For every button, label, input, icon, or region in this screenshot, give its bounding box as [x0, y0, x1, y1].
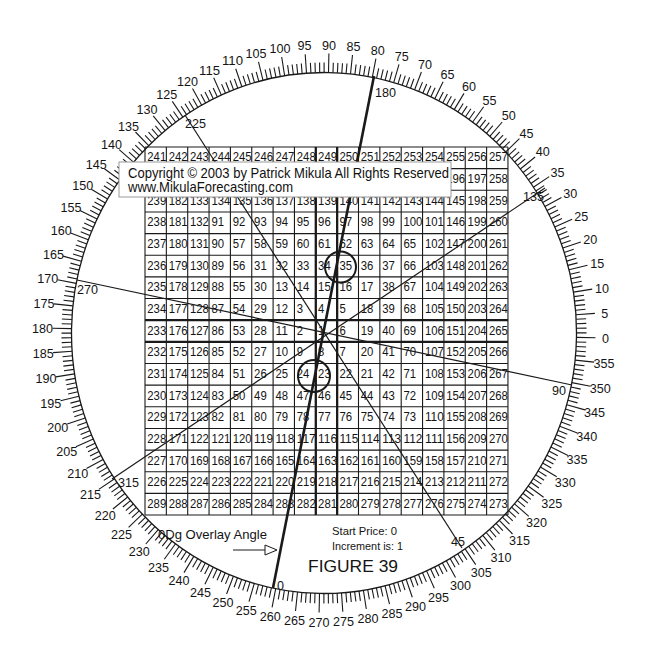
grid-cell-value: 111	[425, 432, 444, 446]
grid-cell-value: 265	[489, 324, 508, 338]
figure-caption: FIGURE 39	[308, 557, 398, 576]
grid-cell-value: 122	[190, 432, 209, 446]
grid-cell-value: 270	[489, 432, 508, 446]
degree-label: 195	[40, 396, 61, 411]
overlay-angle-value: 0	[277, 578, 284, 593]
grid-cell-value: 66	[404, 259, 417, 273]
overlay-angle-value: 45	[451, 534, 465, 549]
grid-cell-value: 285	[233, 497, 252, 511]
degree-label: 150	[72, 178, 93, 193]
grid-cell-value: 223	[211, 475, 230, 489]
grid-cell-value: 280	[339, 497, 358, 511]
degree-label: 285	[382, 606, 403, 621]
grid-cell-value: 60	[297, 237, 310, 251]
degree-label: 60	[462, 79, 476, 94]
degree-label: 320	[526, 515, 547, 530]
grid-cell-value: 38	[382, 280, 395, 294]
degree-label: 125	[156, 87, 177, 102]
grid-cell-value: 277	[404, 497, 423, 511]
grid-cell-value: 72	[404, 389, 417, 403]
grid-cell-value: 261	[489, 237, 508, 251]
grid-cell-value: 43	[382, 389, 395, 403]
grid-cell-value: 207	[468, 389, 487, 403]
grid-cell-value: 115	[339, 432, 358, 446]
grid-cell-value: 176	[169, 324, 188, 338]
grid-cell-value: 234	[147, 302, 166, 316]
grid-cell-value: 57	[233, 237, 246, 251]
degree-label: 305	[471, 565, 492, 580]
grid-cell-value: 94	[275, 215, 288, 229]
grid-cell-value: 175	[169, 345, 188, 359]
degree-label: 120	[177, 74, 198, 89]
grid-cell-value: 91	[211, 215, 224, 229]
grid-cell-value: 169	[190, 454, 209, 468]
grid-cell-value: 28	[254, 324, 267, 338]
start-price-label: Start Price: 0	[332, 525, 397, 537]
degree-label: 250	[213, 595, 234, 610]
grid-cell-value: 40	[382, 324, 395, 338]
degree-label: 115	[199, 63, 220, 78]
degree-label: 175	[34, 296, 55, 311]
grid-cell-value: 222	[233, 475, 252, 489]
grid-cell-value: 232	[147, 345, 166, 359]
degree-label: 310	[491, 550, 512, 565]
degree-label: 270	[309, 615, 330, 630]
grid-cell-value: 68	[404, 302, 417, 316]
degree-label: 210	[67, 466, 88, 481]
grid-cell-value: 260	[489, 215, 508, 229]
grid-cell-value: 17	[361, 280, 374, 294]
grid-cell-value: 36	[361, 259, 374, 273]
degree-label: 105	[246, 46, 267, 61]
degree-label: 215	[80, 487, 101, 502]
grid-cell-value: 61	[318, 237, 331, 251]
overlay-angle-value: 135	[523, 189, 544, 204]
degree-label: 330	[555, 475, 576, 490]
grid-cell-value: 268	[489, 389, 508, 403]
grid-cell-value: 269	[489, 410, 508, 424]
grid-cell-value: 106	[425, 324, 444, 338]
degree-label: 25	[574, 209, 588, 224]
grid-cell-value: 29	[254, 302, 267, 316]
grid-cell-value: 153	[446, 367, 465, 381]
grid-cell-value: 37	[382, 259, 395, 273]
grid-cell-value: 33	[297, 259, 310, 273]
grid-cell-value: 215	[382, 475, 401, 489]
grid-cell-value: 65	[404, 237, 417, 251]
grid-cell-value: 84	[211, 367, 224, 381]
grid-cell-value: 163	[318, 454, 337, 468]
grid-cell-value: 117	[297, 432, 316, 446]
grid-cell-value: 75	[361, 410, 374, 424]
grid-cell-value: 151	[446, 324, 465, 338]
degree-label: 335	[567, 452, 588, 467]
degree-label: 50	[502, 108, 516, 123]
website-url: www.MikulaForecasting.com	[127, 179, 293, 195]
grid-cell-value: 5	[339, 302, 345, 316]
grid-cell-value: 282	[297, 497, 316, 511]
grid-cell-value: 125	[190, 367, 209, 381]
grid-cell-value: 279	[361, 497, 380, 511]
grid-cell-value: 83	[211, 389, 224, 403]
degree-label: 295	[428, 590, 449, 605]
grid-cell-value: 197	[468, 172, 487, 186]
grid-cell-value: 221	[254, 475, 273, 489]
degree-label: 290	[405, 599, 426, 614]
degree-label: 225	[111, 527, 132, 542]
grid-cell-value: 181	[169, 215, 188, 229]
grid-cell-value: 226	[147, 475, 166, 489]
grid-cell-value: 116	[318, 432, 337, 446]
degree-label: 245	[190, 585, 211, 600]
degree-label: 95	[298, 38, 312, 53]
degree-label: 135	[118, 119, 139, 134]
degree-label: 145	[86, 157, 107, 172]
grid-cell-value: 170	[169, 454, 188, 468]
grid-cell-value: 150	[446, 302, 465, 316]
grid-cell-value: 86	[211, 324, 224, 338]
grid-cell-value: 198	[468, 194, 487, 208]
grid-cell-value: 217	[339, 475, 358, 489]
grid-cell-value: 235	[147, 280, 166, 294]
grid-cell-value: 173	[169, 389, 188, 403]
grid-cell-value: 264	[489, 302, 508, 316]
degree-label: 190	[35, 371, 56, 386]
grid-cell-value: 202	[468, 280, 487, 294]
grid-cell-value: 158	[425, 454, 444, 468]
